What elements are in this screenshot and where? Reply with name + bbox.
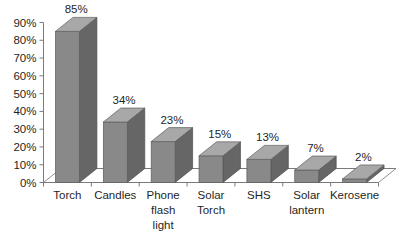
y-tick-label: 40% (13, 105, 36, 117)
y-tick-label: 60% (13, 70, 36, 82)
category-labels-group: TorchCandlesPhoneflashlightSolarTorchSHS… (53, 189, 379, 231)
bars-group (55, 17, 384, 182)
y-tick-label: 70% (13, 52, 36, 64)
bar-value-label: 7% (307, 142, 324, 154)
y-tick-label: 10% (13, 159, 36, 171)
x-category-label: Torch (197, 204, 225, 216)
bar-column (103, 108, 144, 182)
bar-front-face (151, 142, 175, 183)
x-category-label: Candles (94, 189, 136, 201)
bar-front-face (199, 156, 223, 183)
y-tick-label: 90% (13, 17, 36, 29)
y-axis-ticks (40, 23, 44, 183)
bar-value-label: 85% (65, 3, 88, 15)
x-axis-ticks (44, 183, 379, 187)
x-category-label: Kerosene (330, 189, 379, 201)
x-category-label: lantern (289, 204, 324, 216)
x-category-label: Torch (53, 189, 81, 201)
x-category-label: Solar (198, 189, 225, 201)
x-category-label: light (153, 219, 175, 231)
y-tick-label: 30% (13, 123, 36, 135)
y-tick-label: 80% (13, 34, 36, 46)
x-category-label: Solar (293, 189, 320, 201)
bar-front-face (103, 122, 127, 182)
bar-value-label: 13% (256, 131, 279, 143)
y-tick-label: 0% (20, 177, 37, 189)
y-axis-tick-labels: 0%10%20%30%40%50%60%70%80%90% (13, 17, 36, 189)
bar-value-label: 23% (160, 114, 183, 126)
x-category-label: Phone (147, 189, 180, 201)
y-tick-label: 50% (13, 88, 36, 100)
bar-front-face (55, 31, 79, 182)
bar-value-label: 34% (113, 94, 136, 106)
bar-value-label: 2% (355, 151, 372, 163)
chart-container: 0%10%20%30%40%50%60%70%80%90% 85%34%23%1… (0, 0, 417, 251)
bar-chart-3d: 0%10%20%30%40%50%60%70%80%90% 85%34%23%1… (0, 0, 417, 251)
bar-column (55, 17, 96, 182)
bar-front-face (343, 179, 367, 183)
bar-front-face (247, 159, 271, 182)
bar-value-label: 15% (208, 128, 231, 140)
y-tick-label: 20% (13, 141, 36, 153)
x-category-label: flash (151, 204, 175, 216)
bar-side-face (79, 17, 97, 182)
x-category-label: SHS (247, 189, 271, 201)
bar-front-face (295, 170, 319, 182)
